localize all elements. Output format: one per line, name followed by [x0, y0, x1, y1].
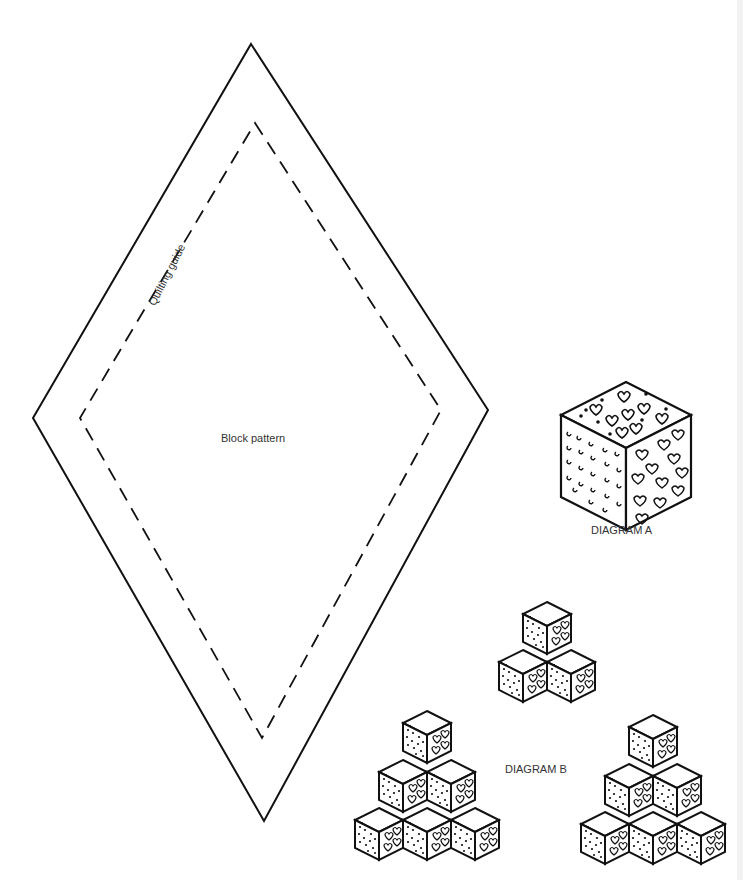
- template-quilting-guide-dashed: [80, 123, 441, 738]
- diagram-canvas: [0, 0, 743, 880]
- diagram-b-small-stack: [499, 602, 595, 702]
- diagram-a-caption: DIAGRAM A: [591, 524, 652, 536]
- diagram-b-caption: DIAGRAM B: [505, 763, 567, 775]
- diagram-b-right-pyramid: [581, 715, 725, 864]
- block-pattern-label: Block pattern: [221, 432, 285, 444]
- diagram-a-cube: [561, 382, 691, 530]
- diagram-b-left-pyramid: [355, 711, 499, 860]
